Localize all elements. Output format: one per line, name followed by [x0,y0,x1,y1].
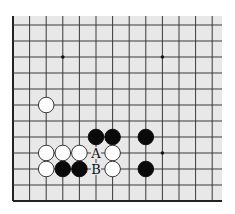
point-labels: AB [90,146,101,177]
go-board[interactable]: AB [0,0,235,214]
black-stone[interactable] [88,129,104,145]
star-point-icon [61,55,65,59]
white-stone[interactable] [105,161,121,177]
star-point-icon [161,151,165,155]
black-stone[interactable] [55,161,71,177]
white-stone[interactable] [55,145,71,161]
black-stone[interactable] [72,161,88,177]
white-stone[interactable] [38,97,54,113]
white-stone[interactable] [72,145,88,161]
white-stone[interactable] [38,145,54,161]
white-stone[interactable] [38,161,54,177]
black-stone[interactable] [138,129,154,145]
star-point-icon [161,55,165,59]
point-label-b: B [91,162,101,177]
black-stone[interactable] [138,161,154,177]
white-stone[interactable] [105,145,121,161]
black-stone[interactable] [105,129,121,145]
point-label-a: A [90,146,101,161]
